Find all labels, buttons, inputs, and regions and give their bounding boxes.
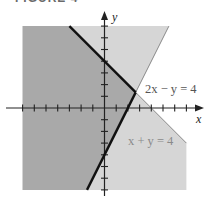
x-axis-arrow-icon	[195, 105, 204, 112]
y-axis-label: y	[111, 10, 118, 24]
y-axis-arrow-icon	[101, 11, 108, 20]
inequality-graph: y x 2x − y = 4 x + y = 4	[0, 0, 220, 210]
label-x-plus-y-equals-4: x + y = 4	[128, 134, 174, 148]
x-axis-label: x	[195, 112, 202, 126]
label-2x-minus-y-equals-4: 2x − y = 4	[145, 82, 197, 96]
